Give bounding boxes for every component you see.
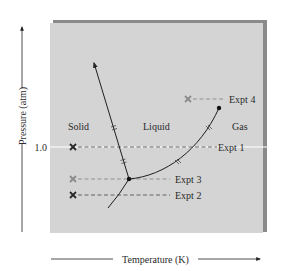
expt1-label: Expt 1 <box>218 142 244 153</box>
region-label-liquid: Liquid <box>143 121 170 132</box>
expt4-label: Expt 4 <box>229 94 255 105</box>
region-label-gas: Gas <box>232 121 248 132</box>
y-axis: Pressure (atm) 1.0 <box>15 27 47 232</box>
expt2-label: Expt 2 <box>175 190 201 201</box>
triple-point <box>127 177 131 181</box>
y-tick-1atm: 1.0 <box>35 142 48 153</box>
region-label-solid: Solid <box>68 121 89 132</box>
critical-point <box>217 106 221 110</box>
x-axis: Temperature (K) <box>51 254 260 266</box>
y-axis-label: Pressure (atm) <box>17 87 29 145</box>
expt3-label: Expt 3 <box>175 174 201 185</box>
phase-diagram: Pressure (atm) 1.0 Temperature (K) <box>0 0 281 271</box>
x-axis-label: Temperature (K) <box>122 254 189 266</box>
